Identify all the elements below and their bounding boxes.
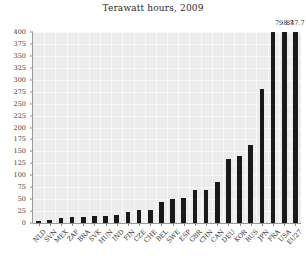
y-tick-label: 300 [14,76,26,84]
y-tick-label: 325 [14,64,26,72]
x-tick-mark [94,223,95,226]
bar[interactable] [193,190,198,223]
x-tick-mark [228,223,229,226]
y-tick-mark [30,187,33,188]
y-axis: 0255075100125150175200225250275300325350… [0,32,33,223]
bar[interactable] [271,32,276,223]
bar[interactable] [226,159,231,223]
bar[interactable] [148,210,153,223]
y-tick-mark [30,55,33,56]
x-tick-mark [240,223,241,226]
bar[interactable] [215,182,220,223]
x-tick-mark [273,223,274,226]
x-tick-mark [295,223,296,226]
bar-value-label: 847.7 [286,19,305,27]
y-tick-label: 0 [22,219,26,227]
y-tick-mark [30,211,33,212]
y-tick-mark [30,163,33,164]
y-tick-label: 275 [14,88,26,96]
y-tick-mark [30,91,33,92]
bar[interactable] [204,190,209,223]
x-tick-mark [39,223,40,226]
y-tick-label: 25 [18,207,26,215]
bars-layer [33,32,301,223]
x-tick-mark [217,223,218,226]
y-tick-mark [30,127,33,128]
x-tick-mark [195,223,196,226]
x-tick-mark [251,223,252,226]
y-tick-mark [30,103,33,104]
bar[interactable] [103,216,108,223]
x-tick-mark [184,223,185,226]
bar[interactable] [159,202,164,223]
x-tick-mark [150,223,151,226]
y-tick-label: 75 [18,183,26,191]
y-tick-mark [30,175,33,176]
bar[interactable] [92,216,97,223]
y-tick-label: 200 [14,124,26,132]
y-tick-label: 225 [14,112,26,120]
y-tick-label: 400 [14,28,26,36]
x-tick-mark [161,223,162,226]
x-tick-mark [50,223,51,226]
bar[interactable] [170,199,175,223]
y-tick-mark [30,199,33,200]
bar[interactable] [137,210,142,223]
y-tick-mark [30,139,33,140]
chart-title: Terawatt hours, 2009 [0,3,306,13]
y-tick-label: 125 [14,159,26,167]
x-tick-mark [262,223,263,226]
x-tick-mark [139,223,140,226]
y-tick-mark [30,43,33,44]
x-tick-mark [117,223,118,226]
x-tick-mark [106,223,107,226]
bar[interactable] [126,212,131,223]
chart-container: Terawatt hours, 2009 0255075100125150175… [0,0,306,279]
y-tick-label: 350 [14,52,26,60]
y-tick-label: 175 [14,135,26,143]
y-tick-label: 250 [14,100,26,108]
bar[interactable] [260,89,265,223]
y-tick-mark [30,32,33,33]
x-tick-mark [72,223,73,226]
y-tick-label: 100 [14,171,26,179]
x-tick-mark [128,223,129,226]
y-tick-label: 50 [18,195,26,203]
x-tick-mark [83,223,84,226]
y-tick-label: 150 [14,147,26,155]
bar[interactable] [181,198,186,223]
y-tick-mark [30,79,33,80]
x-axis-line [33,223,301,224]
y-tick-label: 375 [14,40,26,48]
y-tick-mark [30,67,33,68]
x-tick-mark [173,223,174,226]
bar[interactable] [282,32,287,223]
x-tick-mark [284,223,285,226]
bar[interactable] [114,215,119,223]
bar[interactable] [248,145,253,223]
y-tick-mark [30,151,33,152]
bar[interactable] [237,156,242,223]
y-tick-mark [30,115,33,116]
x-tick-mark [61,223,62,226]
bar[interactable] [293,32,298,223]
x-axis: NLDSVNMEXZAFBRASVKHUNINDFINCZECHEBELSWEE… [33,223,301,279]
x-tick-mark [206,223,207,226]
